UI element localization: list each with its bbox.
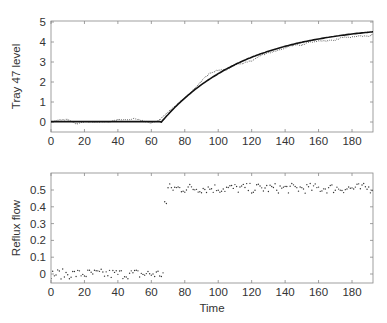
data-point [90, 272, 91, 273]
data-point [144, 274, 145, 275]
data-point [325, 188, 326, 189]
data-point [109, 270, 110, 271]
data-point [124, 276, 125, 277]
data-point [248, 190, 249, 191]
data-point [284, 186, 285, 187]
x-tick-label: 80 [178, 286, 191, 298]
data-point [274, 183, 275, 184]
data-point [348, 186, 349, 187]
y-tick-label: 3 [40, 56, 46, 68]
y-tick-label: 0.1 [30, 251, 46, 263]
data-point [79, 270, 80, 271]
data-point [94, 270, 95, 271]
data-point [85, 276, 86, 277]
data-point [326, 192, 327, 193]
data-point [149, 273, 150, 274]
data-point [244, 187, 245, 188]
data-point [164, 201, 165, 202]
x-tick-label: 0 [48, 286, 54, 298]
data-point [131, 270, 132, 271]
data-point [271, 186, 272, 187]
data-point [75, 276, 76, 277]
y-axis-label: Tray 47 level [10, 44, 22, 109]
data-point [286, 186, 287, 187]
data-point [266, 185, 267, 186]
data-point [72, 271, 73, 272]
y-tick-label: 1 [40, 96, 46, 108]
data-point [147, 271, 148, 272]
data-point [253, 192, 254, 193]
data-point [74, 271, 75, 272]
data-point [351, 187, 352, 188]
data-point [204, 189, 205, 190]
data-point [199, 191, 200, 192]
data-point [70, 277, 71, 278]
data-point [256, 184, 257, 185]
data-point [82, 274, 83, 275]
data-point [283, 186, 284, 187]
data-point [191, 186, 192, 187]
data-point [264, 187, 265, 188]
data-point [97, 270, 98, 271]
data-point [229, 185, 230, 186]
data-point [119, 270, 120, 271]
data-point [156, 271, 157, 272]
data-point [64, 276, 65, 277]
x-tick-label: 160 [309, 135, 328, 147]
data-point [228, 187, 229, 188]
x-tick-label: 180 [342, 286, 361, 298]
data-point [189, 184, 190, 185]
data-point [259, 185, 260, 186]
data-point [67, 274, 68, 275]
data-point [186, 189, 187, 190]
data-point [187, 186, 188, 187]
data-point [202, 188, 203, 189]
data-point [197, 191, 198, 192]
data-point [239, 186, 240, 187]
data-point [331, 184, 332, 185]
y-tick-label: 4 [40, 36, 47, 48]
y-axis-label: Reflux flow [10, 199, 22, 256]
data-point [69, 278, 70, 279]
data-point [294, 186, 295, 187]
data-point [137, 270, 138, 271]
data-point [366, 189, 367, 190]
data-point [62, 268, 63, 269]
x-tick-label: 180 [342, 135, 361, 147]
data-point [182, 191, 183, 192]
data-point [136, 270, 137, 271]
data-point [353, 188, 354, 189]
data-point [146, 273, 147, 274]
data-point [214, 184, 215, 185]
data-point [296, 187, 297, 188]
data-point [249, 183, 250, 184]
data-point [213, 192, 214, 193]
data-point [112, 270, 113, 271]
data-point [174, 187, 175, 188]
data-point [132, 272, 133, 273]
data-point [179, 187, 180, 188]
data-point [355, 186, 356, 187]
x-tick-label: 60 [145, 135, 158, 147]
data-point [219, 191, 220, 192]
data-point [92, 273, 93, 274]
data-point [293, 184, 294, 185]
data-point [104, 275, 105, 276]
data-point [65, 272, 66, 273]
data-point [105, 271, 106, 272]
data-point [254, 190, 255, 191]
data-point [207, 186, 208, 187]
y-tick-label: 0.3 [30, 218, 46, 230]
y-tick-label: 0.2 [30, 234, 46, 246]
data-point [236, 186, 237, 187]
model-fit-series [51, 32, 374, 122]
data-point [154, 276, 155, 277]
data-point [246, 183, 247, 184]
data-point [52, 271, 53, 272]
x-tick-label: 80 [178, 135, 191, 147]
data-point [184, 191, 185, 192]
data-point [336, 186, 337, 187]
data-point [107, 275, 108, 276]
data-point [196, 189, 197, 190]
data-point [142, 274, 143, 275]
